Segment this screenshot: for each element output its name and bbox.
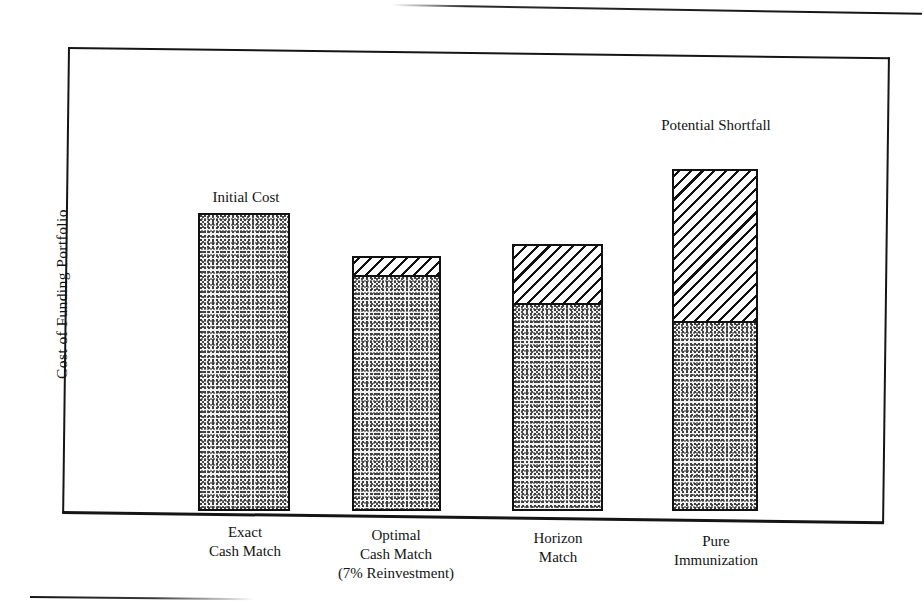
bars-layer — [0, 0, 924, 612]
bar-chart-figure: Cost of Funding Portfolio Initial Cost P… — [0, 0, 924, 612]
bar-horizon-match — [512, 244, 603, 511]
annotation-potential-shortfall: Potential Shortfall — [651, 117, 781, 135]
category-label-line3: (7% Reinvestment) — [325, 564, 467, 583]
category-label-line2: Immunization — [643, 551, 789, 570]
annotation-potential-shortfall-line1: Potential — [661, 117, 714, 133]
bar-segment-potential-shortfall — [672, 169, 758, 323]
category-label-horizon-match: Horizon Match — [487, 529, 629, 567]
category-label-optimal-cash-match: Optimal Cash Match (7% Reinvestment) — [325, 526, 467, 582]
bar-segment-initial-cost — [672, 321, 758, 512]
bar-segment-initial-cost — [352, 275, 441, 512]
bar-segment-initial-cost — [512, 303, 603, 512]
category-label-line2: Cash Match — [325, 545, 467, 564]
annotation-initial-cost-text: Initial Cost — [212, 189, 279, 205]
category-label-line2: Cash Match — [174, 542, 316, 561]
annotation-initial-cost: Initial Cost — [186, 189, 306, 207]
category-label-pure-immunization: Pure Immunization — [643, 532, 789, 570]
bar-exact-cash-match — [198, 213, 290, 511]
bar-pure-immunization — [672, 169, 758, 511]
bar-segment-initial-cost — [198, 213, 290, 511]
category-label-exact-cash-match: Exact Cash Match — [174, 523, 316, 561]
category-label-line1: Exact — [174, 523, 316, 542]
category-label-line1: Horizon — [487, 529, 629, 548]
category-label-line1: Pure — [643, 532, 789, 551]
category-label-line2: Match — [487, 548, 629, 567]
bar-optimal-cash-match — [352, 256, 441, 511]
bar-segment-potential-shortfall — [512, 244, 603, 305]
annotation-potential-shortfall-line2: Shortfall — [718, 117, 771, 133]
category-label-line1: Optimal — [325, 526, 467, 545]
